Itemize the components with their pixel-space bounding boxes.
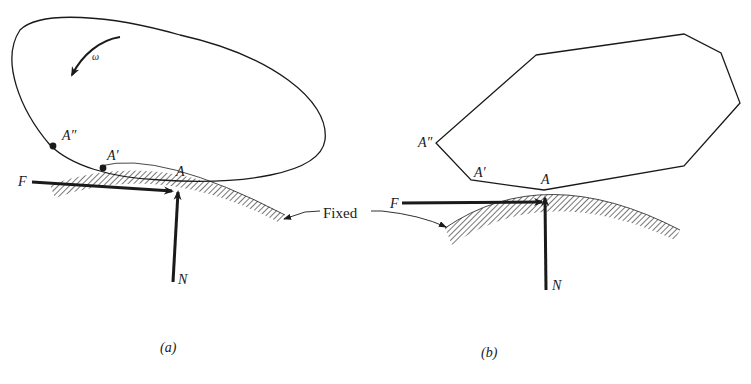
label-a-b: A [540, 172, 550, 187]
caption-b: (b) [481, 345, 498, 361]
diagram-canvas: ω A″ A′ A F N (a) Fixed A″ A′ A F N (b) [0, 0, 751, 384]
label-a: A [175, 164, 185, 179]
point-a-prime [100, 165, 107, 172]
fixed-leader-right [371, 211, 446, 227]
label-normal-b: N [551, 278, 562, 293]
label-a-prime-b: A′ [473, 165, 487, 180]
label-a-prime: A′ [106, 148, 120, 163]
label-friction-b: F [389, 196, 399, 211]
label-friction-a: F [17, 174, 27, 189]
panel-b: A″ A′ A F N (b) [389, 34, 740, 361]
label-a-double-prime: A″ [61, 128, 77, 143]
label-a-double-prime-b: A″ [417, 135, 433, 150]
elliptical-body [12, 17, 325, 181]
normal-force-arrow-a [173, 192, 178, 282]
normal-force-arrow-b [545, 198, 546, 290]
point-a-double-prime [50, 143, 57, 150]
label-normal-a: N [177, 272, 188, 287]
caption-a: (a) [160, 340, 177, 356]
friction-force-arrow-b [402, 202, 542, 203]
fixed-label: Fixed [323, 205, 358, 221]
fixed-leader-left [284, 211, 320, 219]
omega-label: ω [92, 51, 99, 62]
panel-a: ω A″ A′ A F N (a) [12, 17, 325, 356]
